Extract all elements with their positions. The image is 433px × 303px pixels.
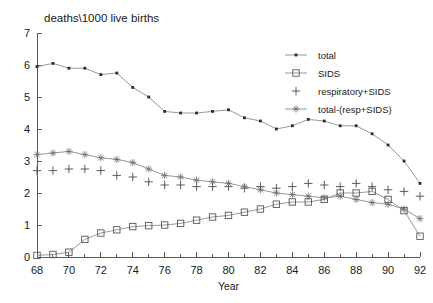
marker-dot [371,132,374,135]
marker-dot [295,54,298,57]
axis-lines [37,33,420,257]
legend-label: total [318,50,336,61]
marker-dot [68,67,71,70]
marker-dot [323,120,326,123]
marker-dot [36,65,39,68]
x-tick-label: 68 [31,264,43,276]
x-tick-label: 90 [382,264,394,276]
legend-label: SIDS [318,68,340,79]
chart-title: deaths\1000 live births [44,12,159,24]
marker-dot [179,112,182,115]
x-tick-label: 76 [159,264,171,276]
y-tick-label: 7 [24,27,30,39]
x-tick-label: 84 [286,264,298,276]
marker-dot [419,182,422,185]
y-tick-label: 1 [24,219,30,231]
marker-dot [211,110,214,113]
x-tick-label: 70 [63,264,75,276]
chart-legend: totalSIDSrespiratory+SIDStotal-(resp+SID… [285,50,392,115]
y-tick-label: 2 [24,187,30,199]
x-tick-label: 92 [414,264,426,276]
marker-dot [195,112,198,115]
marker-dot [115,72,118,75]
series-line [37,63,420,183]
marker-dot [307,118,310,121]
x-tick-label: 74 [127,264,139,276]
series-sids [34,188,423,258]
marker-dot [355,124,358,127]
marker-dot [52,62,55,65]
y-tick-label: 4 [24,123,30,135]
series-total [36,62,422,185]
marker-dot [243,116,246,119]
marker-dot [163,110,166,113]
chart-container: deaths\1000 live births01234567687072747… [0,0,433,303]
legend-label: total-(resp+SIDS) [318,104,392,115]
y-tick-label: 0 [24,251,30,263]
y-tick-label: 6 [24,59,30,71]
marker-dot [259,120,262,123]
legend-label: respiratory+SIDS [318,86,391,97]
marker-dot [131,86,134,89]
marker-dot [147,96,150,99]
x-tick-label: 80 [222,264,234,276]
x-axis-title: Year [218,280,240,292]
marker-dot [339,124,342,127]
y-tick-label: 3 [24,155,30,167]
x-tick-label: 86 [318,264,330,276]
marker-dot [403,160,406,163]
marker-dot [387,144,390,147]
x-tick-label: 72 [95,264,107,276]
marker-dot [99,73,102,76]
x-tick-label: 88 [350,264,362,276]
marker-dot [291,124,294,127]
marker-dot [83,67,86,70]
marker-dot [227,108,230,111]
x-tick-label: 82 [254,264,266,276]
series-total-resp-sids- [33,148,423,222]
marker-dot [275,128,278,131]
line-chart-svg: deaths\1000 live births01234567687072747… [0,0,433,303]
y-tick-label: 5 [24,91,30,103]
x-tick-label: 78 [190,264,202,276]
